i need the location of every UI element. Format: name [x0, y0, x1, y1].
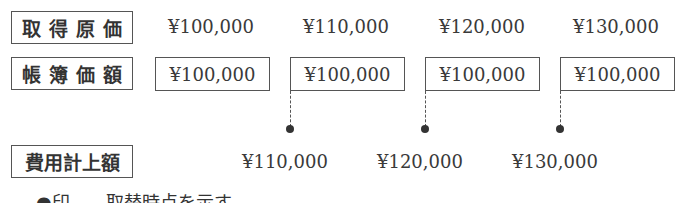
acquisition-cost-value-4: ¥130,000 — [573, 16, 659, 37]
acquisition-cost-value-2: ¥110,000 — [303, 16, 389, 37]
book-value-box-4: ¥100,000 — [560, 57, 675, 91]
replacement-connector-2 — [425, 91, 426, 127]
acquisition-cost-label: 取得原価 — [11, 11, 133, 44]
legend-note: ●印……取替時点を示す — [36, 188, 232, 203]
replacement-point-marker-2 — [421, 125, 429, 133]
replacement-connector-1 — [290, 91, 291, 127]
expense-recorded-label: 費用計上額 — [11, 145, 133, 178]
acquisition-cost-value-1: ¥100,000 — [168, 16, 254, 37]
acquisition-cost-value-3: ¥120,000 — [439, 16, 525, 37]
book-value-box-2: ¥100,000 — [290, 57, 405, 91]
legend-note-text: 印……取替時点を示す — [52, 192, 232, 203]
expense-recorded-value-2: ¥120,000 — [377, 151, 463, 172]
replacement-point-marker-3 — [556, 125, 564, 133]
book-value-label: 帳簿価額 — [11, 57, 133, 90]
book-value-box-3: ¥100,000 — [425, 57, 540, 91]
expense-recorded-value-1: ¥110,000 — [242, 151, 328, 172]
expense-recorded-value-3: ¥130,000 — [512, 151, 598, 172]
replacement-connector-3 — [560, 91, 561, 127]
book-value-box-1: ¥100,000 — [155, 57, 270, 91]
replacement-point-marker-1 — [286, 125, 294, 133]
bullet-icon: ● — [36, 192, 52, 203]
